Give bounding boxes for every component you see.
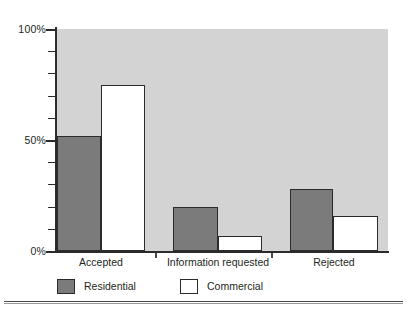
y-tick-label-50: 50% <box>24 135 46 146</box>
bar-accepted-commercial <box>101 85 145 252</box>
legend-swatch-commercial <box>180 279 198 294</box>
y-tick-label-100: 100% <box>18 24 46 35</box>
bar-accepted-residential <box>57 136 101 251</box>
bottom-divider <box>4 301 403 302</box>
y-tick-label-0: 0% <box>30 246 46 257</box>
bar-rejected-commercial <box>333 216 378 252</box>
x-category-label-information-requested: Information requested <box>147 256 289 268</box>
y-tick-100 <box>46 29 56 31</box>
bar-information-requested-commercial <box>218 236 262 252</box>
y-tick-0 <box>46 251 56 253</box>
x-axis-line <box>55 251 389 253</box>
y-minor-tick-40 <box>48 162 56 163</box>
bar-information-requested-residential <box>173 207 218 251</box>
bottom-divider-shadow <box>4 303 403 304</box>
legend-item-commercial: Commercial <box>180 277 263 295</box>
legend-label-commercial: Commercial <box>207 281 263 292</box>
x-category-label-accepted: Accepted <box>51 256 151 268</box>
y-minor-tick-90 <box>48 51 56 52</box>
y-minor-tick-10 <box>48 229 56 230</box>
bar-rejected-residential <box>290 189 333 251</box>
y-minor-tick-60 <box>48 118 56 119</box>
y-minor-tick-30 <box>48 184 56 185</box>
legend-label-residential: Residential <box>84 281 136 292</box>
x-category-label-rejected: Rejected <box>284 256 384 268</box>
y-minor-tick-20 <box>48 207 56 208</box>
y-minor-tick-70 <box>48 96 56 97</box>
y-minor-tick-80 <box>48 73 56 74</box>
bar-chart-figure: 100% 50% 0% Accepted Information request… <box>0 0 407 317</box>
y-tick-50 <box>46 140 56 142</box>
legend-item-residential: Residential <box>57 277 136 295</box>
legend-swatch-residential <box>57 279 75 294</box>
